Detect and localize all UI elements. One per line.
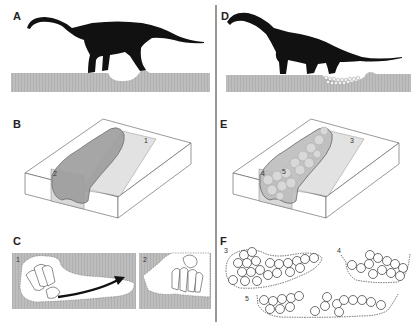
sauropod-silhouette-a <box>27 17 204 73</box>
section-number-c1: 1 <box>16 256 20 263</box>
section-number-f3: 3 <box>224 247 228 254</box>
panel-label-e: E <box>220 118 227 130</box>
section-number-1: 1 <box>144 137 148 144</box>
eggs-f4 <box>348 251 408 281</box>
sauropod-silhouette-d <box>227 13 402 74</box>
section-number-4: 4 <box>261 170 265 177</box>
panel-f: F 3 4 5 <box>220 235 410 317</box>
section-number-f5: 5 <box>245 295 249 302</box>
eggs-f3 <box>229 248 319 286</box>
panel-a: A <box>11 10 210 92</box>
panel-label-b: B <box>13 118 21 130</box>
section-number-c2: 2 <box>143 256 147 263</box>
panel-e: E 3 4 5 <box>220 118 399 218</box>
section-number-5: 5 <box>282 168 286 175</box>
panel-label-a: A <box>13 10 21 22</box>
panel-label-f: F <box>220 235 227 247</box>
ground-a <box>11 68 210 92</box>
panel-c: C 1 2 <box>12 235 211 309</box>
nesting-figure: A D B 1 2 E <box>0 0 418 331</box>
panel-d: D <box>221 10 411 92</box>
ground-d <box>226 72 411 92</box>
section-number-2: 2 <box>53 170 57 177</box>
section-number-3: 3 <box>350 137 354 144</box>
panel-label-d: D <box>221 10 229 22</box>
section-number-f4: 4 <box>337 247 341 254</box>
panel-b: B 1 2 <box>13 118 191 218</box>
panel-label-c: C <box>13 235 21 247</box>
eggs-f5 <box>260 292 386 317</box>
